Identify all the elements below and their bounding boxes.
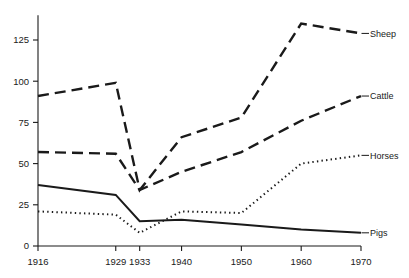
x-axis-tick-label: 1950 xyxy=(231,256,252,267)
y-axis-tick-label: 100 xyxy=(13,76,29,87)
y-axis-tick-label: 50 xyxy=(18,158,29,169)
y-axis-tick-label: 25 xyxy=(18,199,29,210)
y-axis-tick-label: 0 xyxy=(24,240,29,251)
line-chart: 0255075100125 19161929193319401950196019… xyxy=(0,0,409,278)
x-axis-tick-label: 1970 xyxy=(350,256,371,267)
series-label-horses: Horses xyxy=(370,151,399,161)
series-line-cattle xyxy=(38,96,361,190)
x-axis-tick-marks xyxy=(38,246,361,251)
x-axis-tick-label: 1940 xyxy=(171,256,192,267)
plot-axes xyxy=(33,15,361,251)
series-label-cattle: Cattle xyxy=(370,91,394,101)
x-axis-tick-labels: 1916192919331940195019601970 xyxy=(27,256,371,267)
series-label-sheep: Sheep xyxy=(370,29,396,39)
y-axis-tick-labels: 0255075100125 xyxy=(13,34,29,251)
series-inline-labels: SheepCattleHorsesPigs xyxy=(362,29,400,238)
x-axis-tick-label: 1916 xyxy=(27,256,48,267)
series-line-pigs xyxy=(38,185,361,233)
y-axis-tick-marks xyxy=(33,40,38,246)
x-axis-tick-label: 1960 xyxy=(291,256,312,267)
y-axis-tick-label: 75 xyxy=(18,117,29,128)
series-label-pigs: Pigs xyxy=(370,228,388,238)
x-axis-tick-label: 1933 xyxy=(129,256,150,267)
chart-canvas: 0255075100125 19161929193319401950196019… xyxy=(0,0,409,278)
series-line-sheep xyxy=(38,24,361,190)
y-axis-tick-label: 125 xyxy=(13,34,29,45)
x-axis-tick-label: 1929 xyxy=(105,256,126,267)
series-lines xyxy=(38,24,361,233)
